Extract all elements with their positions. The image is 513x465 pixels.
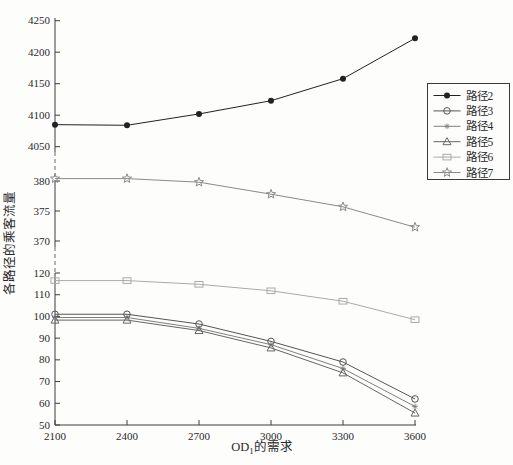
y-tick-label: 4150 <box>28 77 51 89</box>
y-tick-label: 380 <box>34 175 51 187</box>
marker-filled-circle <box>124 122 130 128</box>
y-axis-title: 各路径的乘客流量 <box>2 191 17 295</box>
y-tick-label: 4200 <box>28 46 51 58</box>
series-路径6 <box>51 278 419 323</box>
series-路径4 <box>52 315 418 410</box>
series-line <box>55 320 415 413</box>
axes: 5060708090100110120370375380405041004150… <box>28 14 427 442</box>
y-tick-label: 90 <box>39 332 51 344</box>
series-line <box>55 318 415 407</box>
legend-label: 路径3 <box>466 104 494 117</box>
x-axis-title-base: OD <box>231 440 249 454</box>
x-tick-label: 3300 <box>332 430 355 442</box>
y-tick-label: 4100 <box>28 109 51 121</box>
y-tick-label: 370 <box>34 235 51 247</box>
legend: 路径2路径3路径4路径5路径6路径7 <box>428 84 510 180</box>
y-tick-label: 120 <box>34 267 51 279</box>
x-tick-label: 2400 <box>116 430 139 442</box>
y-tick-label: 70 <box>39 375 51 387</box>
series-路径3 <box>52 311 419 402</box>
marker-filled-circle <box>268 98 274 104</box>
series-路径5 <box>51 316 419 416</box>
x-axis-title-rest: 的需求 <box>254 439 293 454</box>
x-tick-label: 2100 <box>44 430 67 442</box>
series-line <box>55 38 415 125</box>
marker-filled-circle <box>412 35 418 41</box>
legend-label: 路径5 <box>466 135 494 148</box>
y-tick-label: 4250 <box>28 14 51 26</box>
chart-figure: 5060708090100110120370375380405041004150… <box>0 0 513 465</box>
marker-open-circle <box>412 396 419 403</box>
legend-label: 路径4 <box>466 119 494 132</box>
y-tick-label: 375 <box>34 205 51 217</box>
series-line <box>55 314 415 399</box>
y-tick-label: 60 <box>39 397 51 409</box>
x-tick-label: 2700 <box>188 430 211 442</box>
legend-label: 路径7 <box>466 166 494 179</box>
marker-filled-circle <box>52 122 58 128</box>
x-axis-title: OD1的需求 <box>231 439 293 456</box>
marker-filled-circle <box>444 93 450 99</box>
y-tick-label: 110 <box>34 288 51 300</box>
y-tick-label: 50 <box>39 419 51 431</box>
x-tick-label: 3600 <box>404 430 427 442</box>
series-路径2 <box>52 35 418 128</box>
y-tick-label: 100 <box>34 310 51 322</box>
y-tick-label: 4050 <box>28 140 51 152</box>
series-lines <box>50 35 419 416</box>
legend-label: 路径2 <box>466 89 494 102</box>
marker-filled-circle <box>340 76 346 82</box>
series-路径7 <box>50 174 419 231</box>
series-line <box>55 179 415 228</box>
y-tick-label: 80 <box>39 353 51 365</box>
broken-axis-line-chart: 5060708090100110120370375380405041004150… <box>0 0 513 465</box>
marker-asterisk <box>444 124 450 130</box>
marker-filled-circle <box>196 111 202 117</box>
legend-label: 路径6 <box>466 150 494 163</box>
